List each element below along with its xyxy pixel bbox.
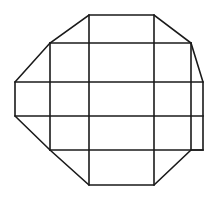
inner-grid-lines bbox=[15, 15, 203, 185]
grid-polygon-diagram bbox=[0, 0, 214, 201]
outer-outline bbox=[15, 15, 203, 185]
